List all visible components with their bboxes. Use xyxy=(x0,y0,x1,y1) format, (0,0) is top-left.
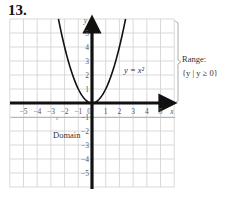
range-set: {y | y ≥ 0} xyxy=(182,68,218,78)
svg-text:2: 2 xyxy=(118,107,122,116)
svg-text:−3: −3 xyxy=(47,107,55,116)
svg-text:−3: −3 xyxy=(81,141,89,150)
svg-text:5: 5 xyxy=(159,107,163,116)
svg-text:−2: −2 xyxy=(61,107,69,116)
svg-text:2: 2 xyxy=(85,71,89,80)
svg-text:y: y xyxy=(83,16,88,25)
svg-text:4: 4 xyxy=(145,107,149,116)
domain-label: Domain xyxy=(53,130,80,140)
svg-text:4: 4 xyxy=(85,43,89,52)
equation-label: y = x² xyxy=(124,65,144,75)
svg-text:1: 1 xyxy=(104,107,108,116)
svg-text:1: 1 xyxy=(85,85,89,94)
svg-text:−5: −5 xyxy=(81,169,89,178)
svg-text:−4: −4 xyxy=(33,107,41,116)
svg-text:−5: −5 xyxy=(20,107,28,116)
svg-text:−4: −4 xyxy=(81,155,89,164)
svg-text:−1: −1 xyxy=(81,113,89,122)
graph: −5−4−3−2−101234512345−1−2−3−4−5xy xyxy=(0,0,226,201)
svg-text:x: x xyxy=(169,107,174,116)
svg-text:3: 3 xyxy=(85,57,89,66)
svg-text:−2: −2 xyxy=(81,127,89,136)
range-title: Range: xyxy=(182,54,206,64)
range-bracket xyxy=(175,21,181,103)
tick-labels: −5−4−3−2−101234512345−1−2−3−4−5xy xyxy=(20,16,175,178)
svg-text:3: 3 xyxy=(131,107,135,116)
svg-text:5: 5 xyxy=(85,29,89,38)
